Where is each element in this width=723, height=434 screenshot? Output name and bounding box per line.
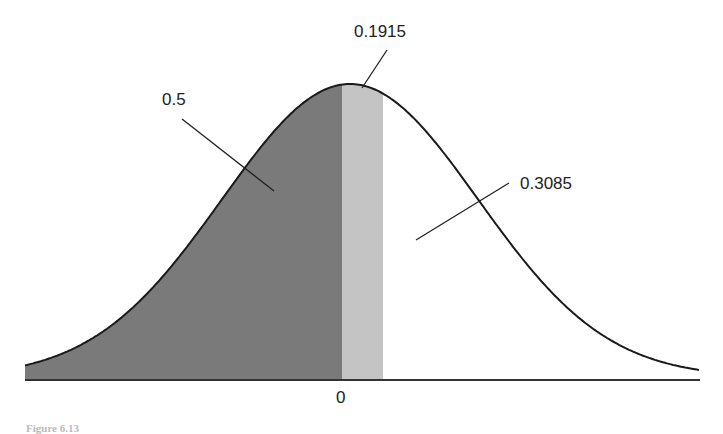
leader-line-middle — [362, 50, 387, 88]
leader-line-right — [416, 183, 509, 240]
left-area-label: 0.5 — [162, 90, 186, 110]
middle-area-region — [342, 0, 383, 380]
right-area-label: 0.3085 — [520, 174, 572, 194]
zero-tick-label: 0 — [336, 388, 345, 408]
figure-caption: Figure 6.13 — [26, 422, 79, 434]
left-area-region — [20, 0, 342, 380]
middle-area-label: 0.1915 — [354, 22, 406, 42]
